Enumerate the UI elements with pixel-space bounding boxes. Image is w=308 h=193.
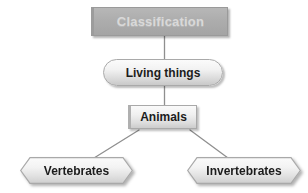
node-living-things[interactable]: Living things (103, 59, 223, 86)
node-vertebrates[interactable]: Vertebrates (20, 157, 133, 184)
node-animals[interactable]: Animals (128, 105, 197, 129)
node-classification-label: Classification (117, 15, 204, 28)
edge-animals-to-invertebrates (190, 130, 228, 158)
node-living-things-label: Living things (126, 67, 201, 79)
node-animals-label: Animals (140, 111, 187, 123)
node-invertebrates[interactable]: Invertebrates (187, 157, 301, 184)
edge-animals-to-vertebrates (94, 130, 139, 158)
node-invertebrates-label: Invertebrates (206, 165, 281, 177)
classification-diagram: Classification Living things Animals Ver… (0, 0, 308, 193)
node-classification[interactable]: Classification (91, 7, 228, 36)
node-vertebrates-label: Vertebrates (44, 165, 109, 177)
